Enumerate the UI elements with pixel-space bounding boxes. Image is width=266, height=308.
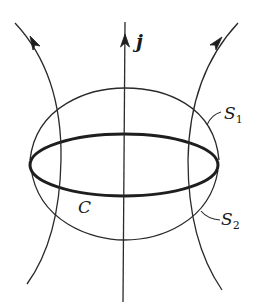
curve-c-label: C (78, 197, 91, 217)
surface-s1-label: S1 (224, 103, 243, 126)
center-field-line (123, 22, 125, 302)
current-density-label: j (132, 30, 143, 52)
left-arrow-icon (30, 36, 40, 50)
s1-leader-line (207, 112, 221, 125)
right-arrow-icon (210, 37, 222, 50)
s2-leader-line (201, 211, 220, 220)
surface-s2-label: S2 (221, 209, 240, 232)
diagram-figure: j S1 S2 C (0, 0, 266, 308)
